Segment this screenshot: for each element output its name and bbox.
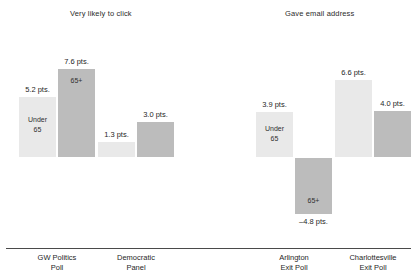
x-axis-line [6,248,411,249]
bar-chart: Very likely to click Gave email address … [0,0,417,275]
value-label-democratic-panel-65-plus: 3.0 pts. [137,110,174,119]
value-label-democratic-panel-under-65: 1.3 pts. [98,130,135,139]
value-label-charlottesville-exit-poll-65-plus: 4.0 pts. [372,99,413,108]
value-label-charlottesville-exit-poll-under-65: 6.6 pts. [335,68,372,77]
bar-democratic-panel-under-65 [98,142,135,157]
x-tick-label-democratic-panel: Democratic Panel [97,253,175,273]
bar-democratic-panel-65-plus [137,122,174,157]
bar-label-under-65: Under 65 [19,115,56,134]
bar-arlington-exit-poll-65-plus: 65+ [295,158,332,214]
x-tick-label-arlington-exit-poll: Arlington Exit Poll [255,253,333,273]
bar-charlottesville-exit-poll-65-plus [374,111,411,157]
value-label-gw-politics-poll-under-65: 5.2 pts. [19,85,56,94]
value-label-arlington-exit-poll-under-65: 3.9 pts. [256,100,293,109]
bar-label-65-plus: 65+ [58,76,95,85]
value-label-gw-politics-poll-65-plus: 7.6 pts. [58,57,95,66]
value-label-arlington-exit-poll-65-plus: –4.8 pts. [291,217,336,226]
x-tick-label-gw-politics-poll: GW Politics Poll [18,253,96,273]
bar-charlottesville-exit-poll-under-65 [335,80,372,157]
bar-label-65-plus: 65+ [295,196,332,205]
bar-label-under-65: Under 65 [256,124,293,143]
plot-area: Under 65 5.2 pts. 65+ 7.6 pts. 1.3 pts. … [0,0,417,248]
x-tick-label-charlottesville-exit-poll: Charlottesville Exit Poll [334,253,412,273]
bar-gw-politics-poll-under-65: Under 65 [19,97,56,157]
bar-gw-politics-poll-65-plus: 65+ [58,69,95,157]
bar-arlington-exit-poll-under-65: Under 65 [256,112,293,157]
